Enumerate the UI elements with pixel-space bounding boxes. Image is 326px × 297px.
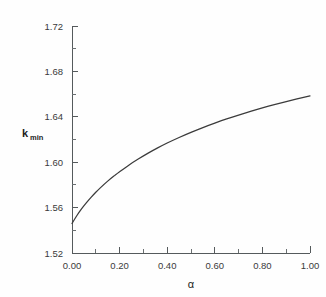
y-axis-label-subscript: min: [30, 133, 44, 142]
y-tick-label: 1.52: [45, 248, 64, 259]
y-axis-label: k: [22, 127, 29, 139]
chart-canvas: 1.521.561.601.641.681.72 0.000.200.400.6…: [0, 0, 326, 297]
y-tick-label: 1.56: [45, 202, 64, 213]
chart-figure: 1.521.561.601.641.681.72 0.000.200.400.6…: [0, 0, 326, 297]
x-axis-label: α: [188, 278, 195, 290]
x-tick-label: 0.60: [206, 260, 225, 271]
y-tick-label: 1.68: [45, 66, 64, 77]
x-tick-label: 0.20: [110, 260, 129, 271]
x-tick-label: 0.80: [253, 260, 272, 271]
y-tick-label: 1.60: [45, 157, 64, 168]
x-tick-label: 0.40: [158, 260, 177, 271]
y-tick-label: 1.64: [45, 111, 64, 122]
x-tick-label: 1.00: [301, 260, 320, 271]
x-tick-label: 0.00: [63, 260, 82, 271]
y-tick-label: 1.72: [45, 21, 64, 32]
